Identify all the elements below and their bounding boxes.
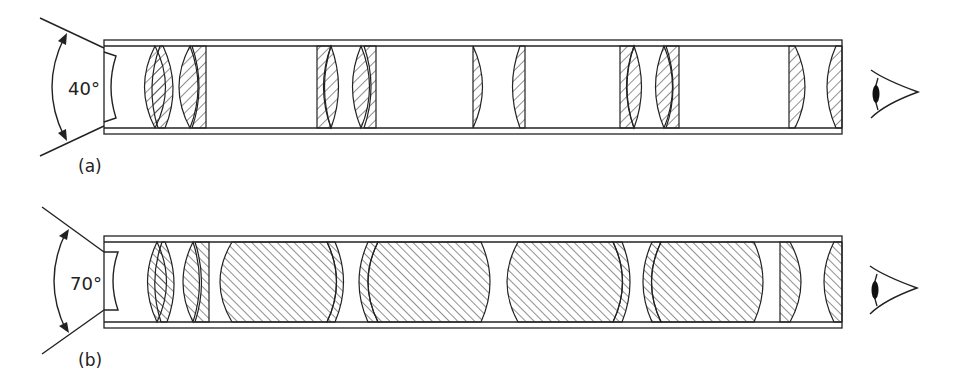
periscope-figure: 40° (a) [0,0,955,376]
lens [652,242,764,322]
objective-window [104,252,118,310]
lens [220,242,337,322]
fov-line-bottom [40,126,104,156]
angle-label: 70° [70,273,102,294]
lens [780,242,801,322]
angle-arc [52,38,64,136]
angle-arc [54,232,66,330]
lens [353,46,370,128]
panel-b: 70° (b) [42,207,917,370]
lens [473,46,483,128]
fov-line-top [42,207,104,252]
arrow-head-bottom [58,129,67,141]
arrow-head-top [59,229,69,240]
lens [368,242,490,322]
panel-a: 40° (a) [40,18,918,176]
arrow-head-top [58,33,67,45]
eye-icon [871,70,918,118]
lens [507,242,623,322]
panel-label: (b) [78,350,102,370]
objective-window [104,52,116,122]
lens [824,242,842,322]
fov-line-top [40,18,104,48]
lens [789,46,805,128]
fov-line-bottom [42,310,104,354]
lens [183,242,200,322]
panel-label: (a) [78,156,102,176]
lens [827,46,842,128]
arrow-head-bottom [59,322,69,333]
eye-icon [870,266,917,314]
angle-label: 40° [68,78,100,99]
lens [513,46,526,128]
